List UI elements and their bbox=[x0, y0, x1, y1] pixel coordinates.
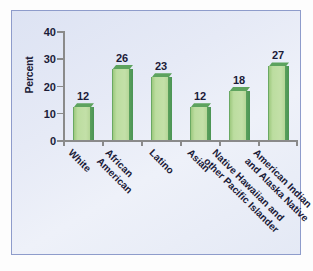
x-label-line: White bbox=[66, 147, 93, 174]
chart-figure: 0 10 20 30 40 Percent bbox=[0, 0, 313, 271]
bar-side-face bbox=[129, 69, 133, 140]
bar-latino[interactable]: 23 bbox=[151, 77, 172, 140]
bar-side-face bbox=[90, 107, 94, 140]
bar-side-face bbox=[207, 107, 211, 140]
bar-front-face bbox=[190, 107, 208, 140]
bar-native-hawaiian-pacific-islander[interactable]: 18 bbox=[229, 91, 250, 140]
bar-front-face bbox=[112, 69, 130, 140]
y-axis-title: Percent bbox=[23, 45, 35, 105]
plot-area: 0 10 20 30 40 Percent bbox=[12, 11, 302, 256]
bar-side-face bbox=[285, 66, 289, 140]
bar-front-face bbox=[151, 77, 169, 140]
bar-asian[interactable]: 12 bbox=[190, 107, 211, 140]
y-tick-label-0: 0 bbox=[30, 136, 56, 147]
bar-value-label-white: 12 bbox=[69, 91, 97, 102]
bar-value-label-asian: 12 bbox=[186, 91, 214, 102]
y-tick-label-40: 40 bbox=[30, 27, 56, 38]
bar-front-face bbox=[268, 66, 286, 140]
x-axis-category-labels: White African American Latino Asian Nati… bbox=[63, 147, 313, 257]
bar-american-indian-alaska-native[interactable]: 27 bbox=[268, 66, 289, 140]
bar-value-label-latino: 23 bbox=[147, 61, 175, 72]
x-label-line: Latino bbox=[147, 147, 176, 176]
bar-value-label-native-hawaiian-pacific-islander: 18 bbox=[225, 75, 253, 86]
bar-value-label-american-indian-alaska-native: 27 bbox=[264, 50, 292, 61]
bar-front-face bbox=[229, 91, 247, 140]
x-label-latino: Latino bbox=[147, 147, 176, 176]
bar-value-label-african-american: 26 bbox=[108, 53, 136, 64]
y-tick-label-10: 10 bbox=[30, 109, 56, 120]
bar-front-face bbox=[73, 107, 91, 140]
x-label-white: White bbox=[66, 147, 93, 174]
bar-african-american[interactable]: 26 bbox=[112, 69, 133, 140]
bar-white[interactable]: 12 bbox=[73, 107, 94, 140]
x-label-african-american: African American bbox=[95, 147, 143, 195]
chart-panel: 0 10 20 30 40 Percent bbox=[11, 10, 301, 255]
bar-side-face bbox=[168, 77, 172, 140]
bar-side-face bbox=[246, 91, 250, 140]
